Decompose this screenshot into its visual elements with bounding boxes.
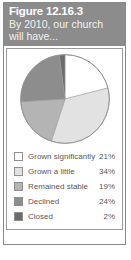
legend-swatch [14,152,23,161]
pie-slice [20,55,64,102]
figure-header: Figure 12.16.3 By 2010, our church will … [4,3,125,46]
legend-value: 19% [99,182,115,192]
figure-title: Figure 12.16.3 [9,5,120,18]
legend-value: 2% [103,212,115,222]
legend-swatch [14,167,23,176]
figure-card: Figure 12.16.3 By 2010, our church will … [3,2,126,245]
legend-swatch [14,182,23,191]
pie-chart [7,49,122,146]
legend-row: Remained stable19% [14,179,115,194]
figure-subtitle: By 2010, our church will have... [9,19,120,42]
legend-label: Declined [28,197,99,207]
legend-value: 34% [99,167,115,177]
legend-row: Grown a little34% [14,164,115,179]
legend-label: Closed [28,212,103,222]
chart-legend: Grown significantly21%Grown a little34%R… [7,149,122,224]
legend-row: Declined24% [14,194,115,209]
legend-value: 24% [99,197,115,207]
legend-label: Grown significantly [28,152,99,162]
legend-label: Grown a little [28,167,99,177]
pie-svg [19,53,111,145]
chart-panel: Grown significantly21%Grown a little34%R… [6,48,123,230]
legend-value: 21% [99,152,115,162]
legend-label: Remained stable [28,182,99,192]
legend-swatch [14,212,23,221]
pie-graphic [19,53,111,145]
legend-swatch [14,197,23,206]
legend-row: Closed2% [14,209,115,224]
legend-row: Grown significantly21% [14,149,115,164]
